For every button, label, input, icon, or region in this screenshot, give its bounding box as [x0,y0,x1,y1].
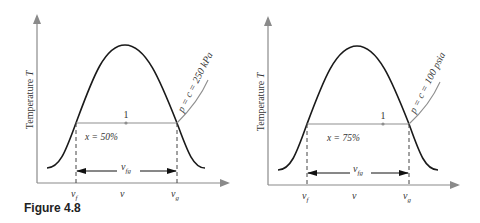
x-tick-vf: vf [71,188,78,202]
quality-label: x = 50% [84,132,118,142]
x-tick-vg: vg [171,188,179,202]
x-tick-vg: vg [403,190,411,204]
state-point-label: 1 [381,110,386,121]
diagram-left: Temperature T p = c = 250 kPa 1 x = 50% … [24,16,228,202]
isobar-label: p = c = 100 psia [407,50,448,116]
x-tick-v: v [120,188,125,199]
figure-caption: Figure 4.8 [24,201,81,215]
x-tick-vf: vf [302,190,309,204]
state-point-1 [381,122,384,125]
y-axis-label: Temperature T [255,71,266,131]
quality-label: x = 75% [326,133,360,143]
vfg-label: vfg [353,163,363,177]
vfg-label: vfg [121,161,131,175]
state-point-1 [124,121,127,124]
isobar-label: p = c = 250 kPa [175,50,215,115]
state-point-label: 1 [124,109,129,120]
x-tick-v: v [352,190,357,201]
y-axis-label: Temperature T [24,69,35,129]
figure-canvas: Temperature T p = c = 250 kPa 1 x = 50% … [0,0,480,223]
diagram-right: Temperature T p = c = 100 psia 1 x = 75%… [255,18,458,204]
